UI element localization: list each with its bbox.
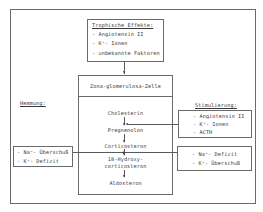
inhibition-item: - Na⁺- Überschuß — [17, 149, 69, 156]
stimulation-connector-1 — [127, 124, 178, 125]
zona-glomerulosa-cell-box: Zona-glomerulosa-Zelle Cholesterin Pregn… — [78, 75, 173, 195]
arrow-down-icon — [123, 175, 125, 178]
stimulation-item: - K⁺- Überschuß — [192, 160, 240, 167]
trophic-item: - unbekannte Faktoren — [92, 50, 160, 57]
stimulation-item: - Na⁺- Defizit — [192, 151, 237, 158]
stimulation-item: - Angiotensin II — [193, 113, 245, 120]
inhibition-box: - Na⁺- Überschuß - K⁺- Defizit — [13, 146, 73, 167]
pathway-step-18-hydroxy-cont: corticosteron — [79, 163, 172, 170]
trophic-item: - K⁺- Ionen — [92, 40, 127, 47]
stimulation-item: - K⁺- Ionen — [193, 121, 228, 128]
stimulation-box-1: - Angiotensin II - K⁺- Ionen - ACTH — [178, 110, 252, 138]
stimulation-label: Stimulierung: — [195, 102, 237, 109]
arrow-down-icon — [123, 71, 125, 74]
trophic-effects-box: Trophische Effekte: - Angiotensin II - K… — [87, 19, 164, 62]
pathway-step-18-hydroxy: 18-Hydroxy- — [79, 156, 172, 163]
arrow-left-icon — [125, 123, 128, 125]
arrow-down-icon — [123, 140, 125, 143]
stimulation-box-2: - Na⁺- Defizit - K⁺- Überschuß — [177, 146, 252, 171]
cross-junction-icon: + — [122, 149, 126, 155]
pathway-step-cholesterin: Cholesterin — [79, 110, 172, 117]
cell-header-divider — [79, 96, 172, 97]
inhibition-item: - K⁺- Defizit — [17, 158, 59, 165]
pathway-step-aldosteron: Aldosteron — [79, 180, 172, 187]
pathway-step-pregnenolon: Pregnenolon — [79, 127, 172, 134]
inhibition-label: Hemmung: — [20, 100, 46, 107]
cell-title: Zona-glomerulosa-Zelle — [79, 83, 172, 90]
stimulation-item: - ACTH — [193, 129, 212, 136]
pathway-step-corticosteron: Corticosteron — [79, 143, 172, 150]
trophic-effects-title: Trophische Effekte: — [92, 22, 153, 29]
trophic-item: - Angiotensin II — [92, 31, 144, 38]
